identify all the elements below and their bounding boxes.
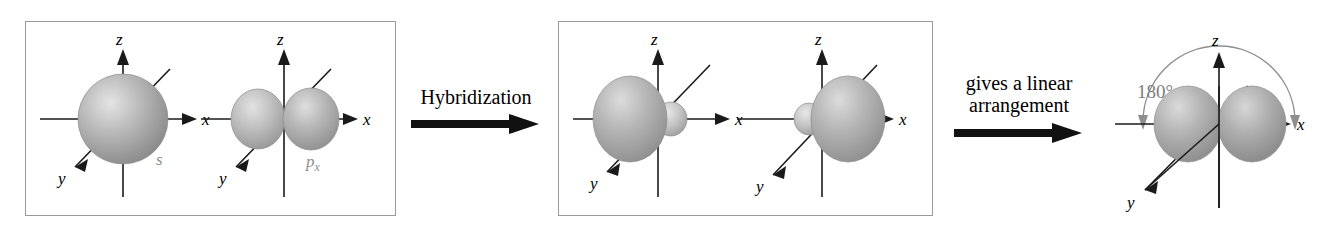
axis-label-x: x (1296, 115, 1305, 134)
panel-hybrid-orbitals: x y z (558, 21, 933, 216)
axis-label-z: z (276, 30, 284, 49)
axis-label-y: y (754, 177, 764, 196)
axis-label-y: y (588, 174, 598, 193)
axis-label-x: x (898, 110, 907, 129)
orbital-sp-hybrid-pair: x y z 180° (1115, 18, 1325, 228)
arrow-right-icon (406, 111, 546, 141)
transition-linear-arrangement: gives a linear arrangement (944, 72, 1094, 150)
orbital-sp-hybrid-right: x y z (729, 27, 929, 207)
arrow-right-icon (944, 120, 1094, 150)
hybridization-figure: x y z s (0, 0, 1326, 244)
axis-label-y: y (217, 169, 227, 188)
axis-label-z: z (115, 30, 123, 49)
axis-label-y: y (1125, 193, 1135, 212)
orbital-label-s: s (156, 150, 163, 169)
transition-hybridization-label: Hybridization (406, 86, 546, 108)
panel-reactant-orbitals: x y z s (25, 21, 396, 216)
axis-label-y: y (56, 169, 66, 188)
axis-label-z: z (650, 30, 658, 49)
orbital-label-px-subscript: x (314, 160, 321, 174)
transition-hybridization: Hybridization (406, 86, 546, 141)
orbital-label-px: px (305, 152, 321, 174)
transition-linear-label: gives a linear arrangement (944, 72, 1094, 117)
axis-label-z: z (814, 30, 822, 49)
axis-label-z: z (1211, 31, 1219, 50)
orbital-px: x y z px (191, 27, 391, 207)
angle-label-180: 180° (1137, 81, 1173, 102)
orbital-label-px-base: p (305, 152, 315, 171)
axis-label-x: x (362, 110, 371, 129)
